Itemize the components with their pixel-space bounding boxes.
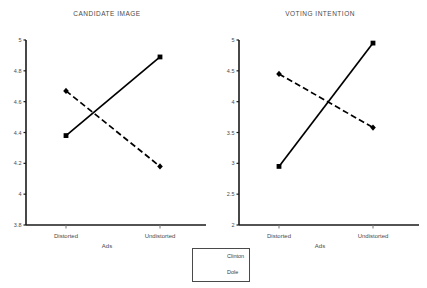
series-group-voting-intention xyxy=(276,41,376,169)
x-axis-title-voting-intention: Ads xyxy=(315,243,325,249)
y-tick-label: 4 xyxy=(18,191,21,197)
series-group-candidate-image xyxy=(63,55,163,170)
series-line xyxy=(279,74,373,128)
x-category-labels-candidate-image: DistortedUndistorted xyxy=(54,233,175,239)
y-tick-label: 4.6 xyxy=(14,99,22,105)
y-tick-label: 5 xyxy=(231,37,234,43)
plot-area-voting-intention: 22.533.544.55 DistortedUndistorted Ads xyxy=(213,0,427,250)
chart-panel-candidate-image: CANDIDATE IMAGE 3.844.24.44.64.85 Distor… xyxy=(0,0,214,250)
data-point-marker xyxy=(277,164,282,169)
y-tick-label: 4.4 xyxy=(14,130,22,136)
data-point-marker xyxy=(371,41,376,46)
series-line xyxy=(66,57,160,136)
series-line xyxy=(279,43,373,166)
y-tick-label: 2.5 xyxy=(227,191,235,197)
legend: Clinton Dole xyxy=(192,248,250,282)
series-line xyxy=(66,91,160,167)
x-category-labels-voting-intention: DistortedUndistorted xyxy=(267,233,388,239)
chart-panel-voting-intention: VOTING INTENTION 22.533.544.55 Distorted… xyxy=(213,0,427,250)
x-category-label: Distorted xyxy=(267,233,291,239)
y-tick-label: 5 xyxy=(18,37,21,43)
data-point-marker xyxy=(157,163,163,169)
axes-candidate-image xyxy=(24,40,207,229)
legend-label-clinton: Clinton xyxy=(227,253,244,259)
data-point-marker xyxy=(64,133,69,138)
legend-entry-clinton: Clinton xyxy=(193,249,249,266)
legend-label-dole: Dole xyxy=(227,269,238,275)
y-tick-label: 3 xyxy=(231,160,234,166)
x-category-label: Undistorted xyxy=(358,233,389,239)
y-tick-label: 4.8 xyxy=(14,68,22,74)
y-tick-label: 4.5 xyxy=(227,68,235,74)
plot-area-candidate-image: 3.844.24.44.64.85 DistortedUndistorted A… xyxy=(0,0,214,250)
x-category-label: Distorted xyxy=(54,233,78,239)
y-tick-label: 3.5 xyxy=(227,130,235,136)
legend-entry-dole: Dole xyxy=(193,265,249,282)
y-tick-labels-voting-intention: 22.533.544.55 xyxy=(227,37,235,228)
x-category-label: Undistorted xyxy=(145,233,176,239)
data-point-marker xyxy=(158,55,163,60)
y-tick-label: 4.2 xyxy=(14,160,22,166)
data-point-marker xyxy=(370,124,376,130)
y-tick-labels-candidate-image: 3.844.24.44.64.85 xyxy=(14,37,22,228)
figure-container: CANDIDATE IMAGE 3.844.24.44.64.85 Distor… xyxy=(0,0,427,288)
data-point-marker xyxy=(276,71,282,77)
axes-voting-intention xyxy=(237,40,420,229)
y-tick-label: 4 xyxy=(231,99,234,105)
x-axis-title-candidate-image: Ads xyxy=(102,243,112,249)
y-tick-label: 2 xyxy=(231,222,234,228)
y-tick-label: 3.8 xyxy=(14,222,22,228)
